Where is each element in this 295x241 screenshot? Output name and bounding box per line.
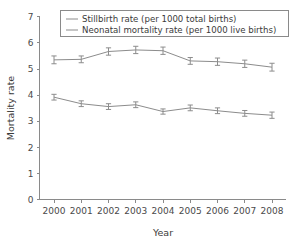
x-tick-label-2004: 2004 xyxy=(152,206,175,216)
legend-label-neonatal: Neonatal mortality rate (per 1000 live b… xyxy=(82,25,276,35)
x-tick-label-2003: 2003 xyxy=(124,206,147,216)
x-tick-label-2007: 2007 xyxy=(233,206,256,216)
series-group xyxy=(51,46,274,118)
y-tick-label-5: 5 xyxy=(28,64,34,74)
x-tick-label-2006: 2006 xyxy=(206,206,229,216)
x-tick-group: 200020012002200320042005200620072008 xyxy=(43,200,284,216)
axis-group xyxy=(40,16,287,200)
series-stillbirth xyxy=(51,46,274,71)
y-tick-label-6: 6 xyxy=(28,38,34,48)
y-tick-label-0: 0 xyxy=(28,195,34,205)
x-tick-label-2000: 2000 xyxy=(43,206,66,216)
y-tick-label-2: 2 xyxy=(28,143,34,153)
x-tick-label-2008: 2008 xyxy=(261,206,284,216)
chart-figure: 01234567 2000200120022003200420052006200… xyxy=(0,0,295,241)
y-tick-label-7: 7 xyxy=(28,12,34,22)
x-tick-label-2001: 2001 xyxy=(70,206,93,216)
x-tick-label-2002: 2002 xyxy=(97,206,120,216)
line-chart: 01234567 2000200120022003200420052006200… xyxy=(0,0,295,241)
y-tick-label-1: 1 xyxy=(28,169,34,179)
series-neonatal xyxy=(51,94,274,118)
y-tick-group: 01234567 xyxy=(28,12,40,205)
y-tick-label-4: 4 xyxy=(28,90,34,100)
legend-label-stillbirth: Stillbirth rate (per 1000 total births) xyxy=(82,14,236,24)
y-axis-title: Mortality rate xyxy=(5,76,16,141)
y-tick-label-3: 3 xyxy=(28,116,34,126)
x-axis-title: Year xyxy=(152,227,173,238)
legend: Stillbirth rate (per 1000 total births) … xyxy=(61,11,289,37)
x-tick-label-2005: 2005 xyxy=(179,206,202,216)
